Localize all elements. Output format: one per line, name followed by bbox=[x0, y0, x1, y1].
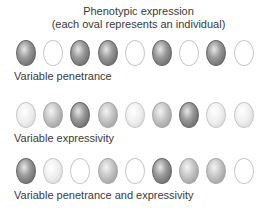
individual-oval bbox=[98, 40, 118, 66]
individual-oval bbox=[179, 158, 199, 184]
individual-oval bbox=[70, 102, 90, 128]
individual-oval bbox=[125, 40, 145, 66]
individual-oval bbox=[234, 102, 254, 128]
individual-oval bbox=[234, 40, 254, 66]
individual-oval bbox=[16, 158, 36, 184]
individual-oval bbox=[43, 158, 63, 184]
row-label-variable-expressivity: Variable expressivity bbox=[14, 132, 114, 144]
individual-oval bbox=[152, 158, 172, 184]
row-label-variable-penetrance: Variable penetrance bbox=[14, 70, 112, 82]
individual-oval bbox=[16, 40, 36, 66]
row-label-variable-penetrance-and-expressivity: Variable penetrance and expressivity bbox=[14, 189, 194, 201]
individual-oval bbox=[125, 102, 145, 128]
individual-oval bbox=[206, 102, 226, 128]
individual-oval bbox=[179, 102, 199, 128]
individual-oval bbox=[43, 40, 63, 66]
title-line-1: Phenotypic expression bbox=[0, 5, 277, 17]
individual-oval bbox=[152, 40, 172, 66]
individual-oval bbox=[98, 158, 118, 184]
individual-oval bbox=[70, 158, 90, 184]
title-line-2: (each oval represents an individual) bbox=[0, 18, 277, 30]
individual-oval bbox=[43, 102, 63, 128]
individual-oval bbox=[98, 102, 118, 128]
individual-oval bbox=[125, 158, 145, 184]
individual-oval bbox=[179, 40, 199, 66]
individual-oval bbox=[70, 40, 90, 66]
individual-oval bbox=[16, 102, 36, 128]
individual-oval bbox=[152, 102, 172, 128]
individual-oval bbox=[206, 40, 226, 66]
individual-oval bbox=[234, 158, 254, 184]
individual-oval bbox=[206, 158, 226, 184]
